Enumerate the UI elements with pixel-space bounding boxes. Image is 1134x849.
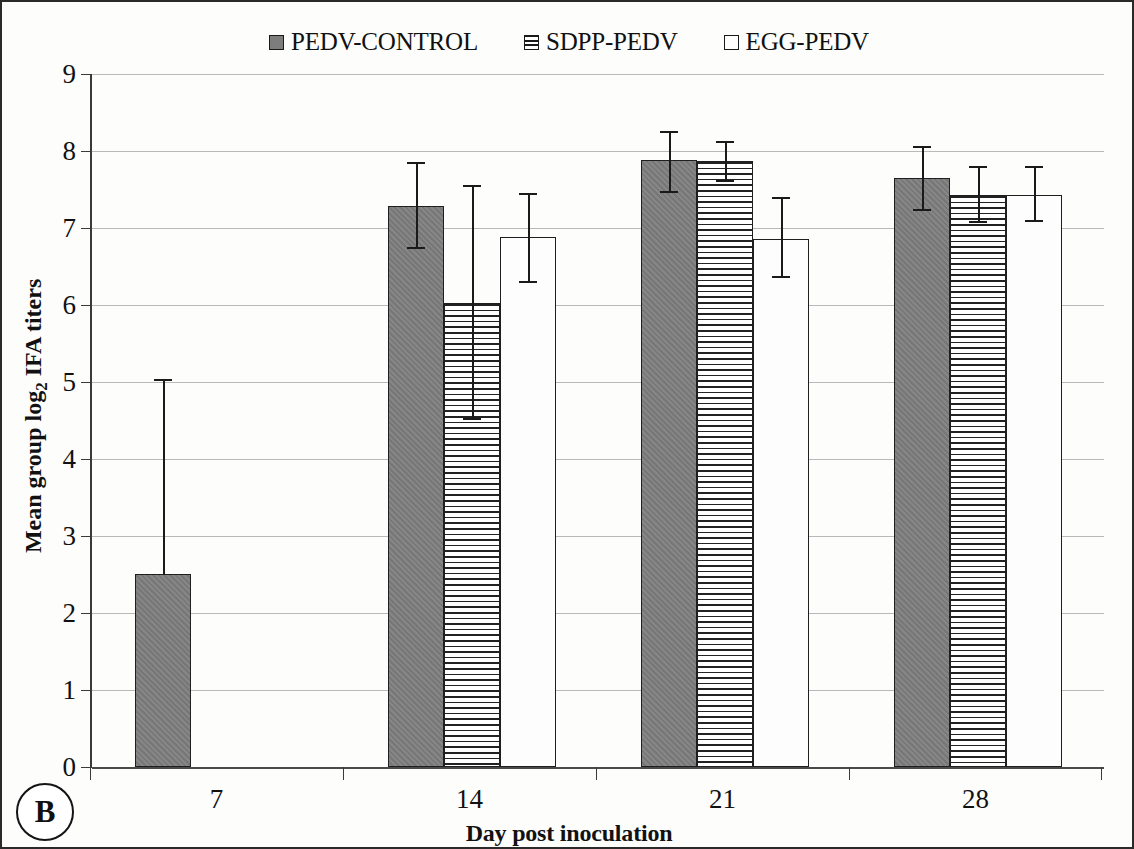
chart-legend: PEDV-CONTROLSDPP-PEDVEGG-PEDV — [2, 28, 1134, 56]
y-axis-tick-label: 0 — [36, 752, 76, 783]
gridline — [92, 151, 1104, 152]
x-axis-tick — [596, 767, 597, 780]
x-axis-tick-label: 21 — [663, 784, 783, 815]
bar-pedv-control-day-7 — [135, 574, 191, 767]
legend-item-pedv-control: PEDV-CONTROL — [269, 28, 478, 56]
y-axis-title-post: IFA titers — [20, 279, 46, 383]
y-axis-tick — [81, 305, 92, 306]
error-bar-cap-top — [969, 166, 987, 168]
error-bar-stem — [978, 166, 980, 222]
error-bar-stem — [1034, 166, 1036, 221]
error-bar-cap-top — [407, 162, 425, 164]
y-axis-title: Mean group log2 IFA titers — [20, 136, 52, 696]
error-bar-cap-top — [519, 193, 537, 195]
y-axis-tick — [81, 74, 92, 75]
bar-pedv-control-day-14 — [388, 206, 444, 767]
legend-item-label: SDPP-PEDV — [546, 28, 678, 56]
x-axis-tick — [849, 767, 850, 780]
x-axis-tick-label: 28 — [916, 784, 1036, 815]
error-bar-cap-bottom — [969, 221, 987, 223]
figure-panel: PEDV-CONTROLSDPP-PEDVEGG-PEDV 0123456789… — [0, 0, 1134, 849]
y-axis-tick-label: 9 — [36, 59, 76, 90]
panel-label-badge: B — [16, 783, 74, 841]
y-axis-title-pre: Mean group log — [20, 391, 46, 553]
error-bar-cap-bottom — [407, 247, 425, 249]
bar-egg-pedv-day-28 — [1006, 195, 1062, 767]
error-bar-stem — [922, 146, 924, 211]
y-axis-tick — [81, 228, 92, 229]
error-bar-cap-bottom — [772, 276, 790, 278]
error-bar-cap-bottom — [913, 209, 931, 211]
error-bar-stem — [725, 141, 727, 182]
error-bar-cap-bottom — [716, 180, 734, 182]
y-axis-tick — [81, 382, 92, 383]
x-axis-tick-label: 14 — [410, 784, 530, 815]
y-axis-tick — [81, 613, 92, 614]
error-bar-cap-top — [913, 146, 931, 148]
error-bar-stem — [163, 379, 165, 574]
y-axis-title-subscript: 2 — [32, 382, 51, 391]
x-axis-ticks — [90, 767, 1102, 780]
plot-area — [90, 74, 1102, 767]
legend-item-egg-pedv: EGG-PEDV — [724, 28, 869, 56]
legend-item-sdpp-pedv: SDPP-PEDV — [524, 28, 678, 56]
error-bar-cap-top — [772, 197, 790, 199]
error-bar-cap-top — [154, 379, 172, 381]
bar-egg-pedv-day-21 — [753, 239, 809, 767]
legend-swatch-icon — [269, 35, 284, 50]
error-bar-cap-top — [463, 185, 481, 187]
error-bar-stem — [669, 131, 671, 193]
gridline — [92, 74, 1104, 75]
error-bar-cap-top — [660, 131, 678, 133]
error-bar-cap-bottom — [1025, 220, 1043, 222]
legend-item-label: PEDV-CONTROL — [291, 28, 478, 56]
x-axis-tick — [90, 767, 91, 780]
y-axis-tick — [81, 536, 92, 537]
x-axis-tick — [1101, 767, 1102, 780]
x-axis-tick-label: 7 — [157, 784, 277, 815]
bar-sdpp-pedv-day-21 — [697, 161, 753, 767]
x-axis-title: Day post inoculation — [2, 820, 1134, 847]
x-axis-tick — [343, 767, 344, 780]
error-bar-cap-bottom — [660, 191, 678, 193]
legend-item-label: EGG-PEDV — [746, 28, 869, 56]
error-bar-stem — [416, 162, 418, 249]
y-axis-tick — [81, 690, 92, 691]
error-bar-stem — [781, 197, 783, 278]
bar-egg-pedv-day-14 — [500, 237, 556, 767]
error-bar-cap-bottom — [519, 281, 537, 283]
bar-pedv-control-day-28 — [894, 178, 950, 767]
error-bar-cap-top — [1025, 166, 1043, 168]
legend-swatch-icon — [524, 35, 539, 50]
y-axis-tick — [81, 459, 92, 460]
error-bar-cap-top — [716, 141, 734, 143]
error-bar-cap-bottom — [463, 418, 481, 420]
legend-swatch-icon — [724, 35, 739, 50]
y-axis-tick — [81, 151, 92, 152]
error-bar-stem — [528, 193, 530, 284]
error-bar-stem — [472, 185, 474, 421]
bar-pedv-control-day-21 — [641, 160, 697, 767]
bar-sdpp-pedv-day-28 — [950, 195, 1006, 767]
x-axis-tick-labels: 7142128 — [90, 784, 1102, 818]
